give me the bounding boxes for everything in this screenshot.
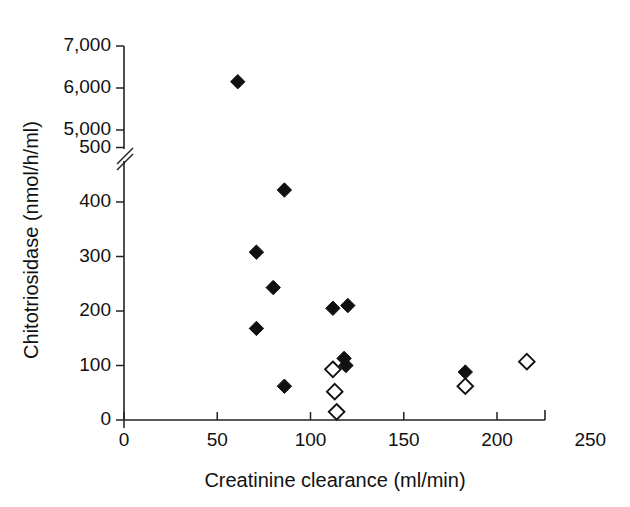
x-tick-label: 200 [481,429,513,450]
plot-canvas: 01002003004005005,0006,0007,000 05010015… [0,0,630,507]
data-point-open [519,354,535,370]
x-tick-label: 100 [295,429,327,450]
data-point-filled [277,379,291,393]
y-tick-label: 6,000 [63,76,111,97]
axis-break-marker [117,148,133,170]
y-axis-title: Chitotriosidase (nmol/h/ml) [20,121,42,359]
data-point-open [329,404,345,420]
data-point-open [457,378,473,394]
data-point-open [327,384,343,400]
y-tick-label: 0 [100,408,111,429]
y-tick-label: 200 [79,299,111,320]
data-point-filled [231,75,245,89]
data-point-filled [249,321,263,335]
scatter-plot-figure: 01002003004005005,0006,0007,000 05010015… [0,0,630,507]
y-tick-label: 100 [79,354,111,375]
data-point-filled [326,301,340,315]
data-point-open [325,362,341,378]
data-point-filled [266,280,280,294]
y-tick-label: 400 [79,190,111,211]
y-axis-ticks: 01002003004005005,0006,0007,000 [63,34,124,429]
y-tick-label: 7,000 [63,34,111,55]
data-points [231,75,535,420]
y-tick-label: 300 [79,245,111,266]
y-tick-label: 5,000 [63,118,111,139]
x-tick-label: 0 [119,429,130,450]
x-tick-label: 150 [388,429,420,450]
data-point-filled [249,245,263,259]
x-axis-ticks: 050100150200250 [119,412,606,450]
x-tick-label: 250 [574,429,606,450]
x-tick-label: 50 [207,429,228,450]
data-point-filled [341,298,355,312]
data-point-filled [277,183,291,197]
x-axis-title: Creatinine clearance (ml/min) [204,469,465,491]
